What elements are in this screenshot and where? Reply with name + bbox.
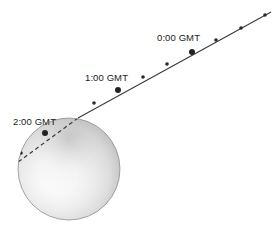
minor-marker [67,114,71,118]
gmt-label-0: 0:00 GMT [157,33,200,43]
hour-marker-0 [189,49,195,55]
hour-marker-1 [115,87,121,93]
minor-marker [165,62,169,66]
minor-marker [214,38,218,42]
hour-marker-2 [42,130,48,136]
earth-sphere [18,118,120,220]
cropped-caption-artifact [2,219,122,226]
minor-marker [263,13,267,17]
diagram-canvas [0,0,273,228]
track-solid-group [78,12,271,118]
minor-marker [141,75,145,79]
gmt-label-2: 2:00 GMT [13,117,56,127]
orbit-diagram-figure: 0:00 GMT 1:00 GMT 2:00 GMT [0,0,273,228]
minor-marker [92,101,96,105]
minor-marker [239,26,243,30]
gmt-label-1: 1:00 GMT [85,73,128,83]
sphere-top-shadow [18,118,120,220]
